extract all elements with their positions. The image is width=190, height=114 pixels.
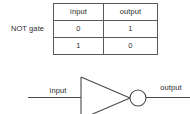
- cell-input-1: 1: [54, 38, 104, 55]
- column-header-input: input: [54, 4, 104, 21]
- cell-output-0: 1: [104, 21, 158, 38]
- input-signal-label: input: [38, 86, 78, 96]
- gate-name-label: NOT gate: [4, 24, 51, 34]
- cell-input-0: 0: [54, 21, 104, 38]
- inversion-bubble-icon: [130, 90, 146, 106]
- inverter-triangle: [81, 77, 130, 114]
- column-header-output: output: [104, 4, 158, 21]
- table-row: 1 0: [54, 38, 158, 55]
- cell-output-1: 0: [104, 38, 158, 55]
- gate-symbol-diagram: input output: [0, 60, 190, 114]
- truth-table: input output 0 1 1 0: [53, 3, 158, 55]
- not-gate-figure: NOT gate input output 0 1 1 0: [0, 0, 190, 114]
- table-header-row: input output: [54, 4, 158, 21]
- table-row: 0 1: [54, 21, 158, 38]
- output-signal-label: output: [152, 83, 190, 93]
